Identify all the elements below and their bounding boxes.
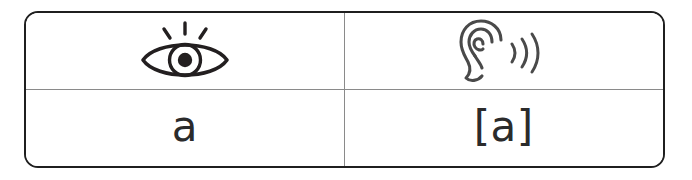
table-cell-phoneme: [a] bbox=[345, 90, 664, 167]
phoneme-text: [a] bbox=[474, 106, 534, 150]
table-grid: a [a] bbox=[26, 13, 663, 166]
table-cell-eye bbox=[26, 13, 345, 90]
grapheme-phoneme-table: a [a] bbox=[24, 11, 665, 168]
eye-icon bbox=[133, 20, 237, 82]
page-root: a [a] bbox=[0, 0, 692, 180]
grapheme-text: a bbox=[172, 106, 198, 150]
table-cell-grapheme: a bbox=[26, 90, 345, 167]
table-cell-ear bbox=[345, 13, 664, 90]
ear-icon bbox=[456, 18, 552, 84]
